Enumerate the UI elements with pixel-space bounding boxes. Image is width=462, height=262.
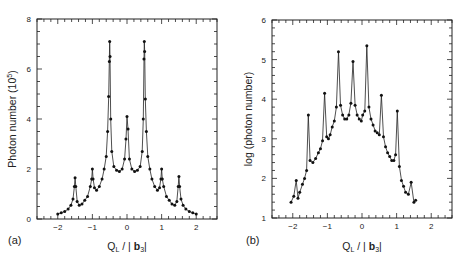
data-point xyxy=(145,130,148,133)
data-point xyxy=(321,139,324,142)
data-point xyxy=(105,155,108,158)
data-point xyxy=(146,155,149,158)
data-point xyxy=(175,200,178,203)
data-point xyxy=(72,198,75,201)
ticks-a: −2−101202468 xyxy=(27,15,217,232)
data-point xyxy=(329,133,332,136)
y-tick-label: 6 xyxy=(27,65,32,74)
y-tick-label: 8 xyxy=(27,15,32,24)
data-point xyxy=(407,193,410,196)
data-point xyxy=(143,50,146,53)
y-tick-label: 4 xyxy=(27,115,32,124)
data-point xyxy=(331,125,334,128)
data-point xyxy=(162,185,165,188)
data-point xyxy=(56,213,59,216)
data-point xyxy=(363,110,366,113)
data-point xyxy=(414,199,417,202)
data-point xyxy=(191,211,194,214)
data-point xyxy=(69,204,72,207)
data-point xyxy=(388,155,391,158)
data-point xyxy=(333,119,336,122)
data-point xyxy=(335,106,338,109)
data-point xyxy=(153,185,156,188)
data-point xyxy=(392,159,395,162)
data-point xyxy=(360,119,363,122)
data-point xyxy=(126,115,129,118)
data-point xyxy=(123,158,126,161)
data-point xyxy=(347,114,350,117)
data-point xyxy=(184,208,187,211)
data-point xyxy=(356,114,359,117)
data-point xyxy=(108,40,111,43)
data-point xyxy=(319,147,322,150)
data-point xyxy=(74,176,77,179)
x-tick-label: −1 xyxy=(88,223,98,232)
data-point xyxy=(95,189,98,192)
data-point xyxy=(81,203,84,206)
data-point xyxy=(92,178,95,181)
data-point xyxy=(93,186,96,189)
y-tick-label: 5 xyxy=(262,56,267,65)
data-point xyxy=(298,191,301,194)
data-point xyxy=(67,208,70,211)
data-point xyxy=(384,145,387,148)
data-point xyxy=(309,159,312,162)
data-point xyxy=(118,170,121,173)
data-point xyxy=(112,165,115,168)
data-point xyxy=(307,114,310,117)
data-point xyxy=(160,168,163,171)
x-tick-label: 1 xyxy=(159,223,164,232)
data-point xyxy=(394,153,397,156)
data-point xyxy=(156,189,159,192)
data-point xyxy=(133,170,136,173)
data-point xyxy=(365,44,368,47)
data-point xyxy=(354,104,357,107)
data-point xyxy=(386,151,389,154)
x-tick-label: 2 xyxy=(194,223,199,232)
figure: −2−101202468 Photon number (105) QL / | … xyxy=(0,0,462,262)
panel-a: −2−101202468 Photon number (105) QL / | … xyxy=(6,15,217,253)
data-point xyxy=(144,98,147,101)
data-point xyxy=(178,185,181,188)
data-point xyxy=(110,150,113,153)
data-point xyxy=(171,203,174,206)
ticks-b: −2−1012123456 xyxy=(262,16,452,231)
y-tick-label: 1 xyxy=(262,214,267,223)
data-point xyxy=(290,201,293,204)
data-point xyxy=(339,104,342,107)
data-point xyxy=(136,169,139,172)
data-point xyxy=(372,123,375,126)
y-axis-title-b: log (photon number) xyxy=(242,72,254,167)
data-point xyxy=(165,195,168,198)
data-point xyxy=(103,168,106,171)
data-point xyxy=(295,179,298,182)
data-point xyxy=(83,199,86,202)
x-tick-label: −1 xyxy=(323,222,333,231)
data-point xyxy=(410,181,413,184)
data-point xyxy=(107,95,110,98)
y-tick-label: 2 xyxy=(27,165,32,174)
x-tick-label: 0 xyxy=(360,222,365,231)
data-point xyxy=(177,175,180,178)
y-tick-label: 2 xyxy=(262,174,267,183)
data-point xyxy=(141,150,144,153)
data-point xyxy=(74,185,77,188)
data-point xyxy=(89,185,92,188)
data-point xyxy=(380,94,383,97)
data-point xyxy=(345,118,348,121)
panel-label-b: (b) xyxy=(246,234,259,246)
data-point xyxy=(98,185,101,188)
data-point xyxy=(182,204,185,207)
data-markers-a xyxy=(56,40,197,216)
data-point xyxy=(78,204,81,207)
data-point xyxy=(317,151,320,154)
y-tick-label: 4 xyxy=(262,95,267,104)
data-point xyxy=(121,168,124,171)
data-point xyxy=(370,118,373,121)
data-point xyxy=(109,118,112,121)
data-point xyxy=(314,157,317,160)
data-point xyxy=(91,168,94,171)
y-axis-title-a: Photon number (105) xyxy=(6,70,18,167)
data-point xyxy=(76,200,79,203)
data-point xyxy=(86,195,89,198)
